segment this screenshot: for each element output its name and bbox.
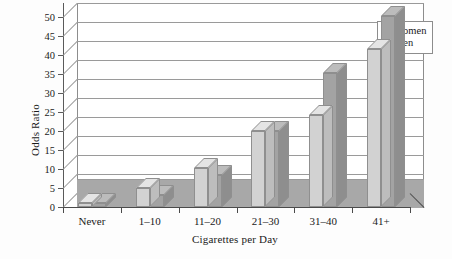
x-axis-tick [121, 207, 122, 213]
y-axis-tick-label: 45 [45, 31, 56, 42]
bar-side-face [395, 6, 405, 207]
x-axis-title: Cigarettes per Day [0, 233, 452, 245]
plot-area: 05101520253035404550 [63, 17, 410, 207]
y-axis-tick-label: 50 [45, 12, 56, 23]
x-axis-category-3140: 31–40 [310, 215, 338, 227]
bar-women-never [78, 203, 92, 207]
y-axis-tick-label: 15 [45, 145, 56, 156]
x-axis-category-1120: 11–20 [194, 215, 221, 227]
y-axis-tick-label: 35 [45, 69, 56, 80]
bar-front-face [309, 115, 323, 207]
y-axis-tick-label: 10 [45, 164, 56, 175]
x-axis-tick [294, 207, 295, 213]
x-axis-tick [179, 207, 180, 213]
y-axis-tick-label: 40 [45, 50, 56, 61]
gridline [77, 3, 424, 4]
bar-front-face [251, 131, 265, 207]
y-axis-title: Odds Ratio [29, 104, 41, 156]
x-axis-category-110: 1–10 [139, 215, 161, 227]
bar-front-face [367, 49, 381, 207]
bar-side-face [279, 121, 289, 207]
y-axis-tick-label: 25 [45, 107, 56, 118]
bar-women-41+ [367, 49, 381, 207]
chart-figure: Odds Ratio 05101520253035404550 Never1–1… [0, 0, 452, 259]
x-axis-tick [237, 207, 238, 213]
bar-front-face [78, 203, 92, 207]
bar-side-face [265, 121, 275, 207]
y-axis-tick-label: 5 [50, 183, 55, 194]
bar-group [63, 17, 410, 207]
bar-women-2130 [251, 131, 265, 207]
y-axis-tick-label: 30 [45, 88, 56, 99]
y-axis-tick-label: 20 [45, 126, 56, 137]
x-axis-tick [63, 207, 64, 213]
x-axis-category-41+: 41+ [372, 215, 389, 227]
bar-front-face [136, 188, 150, 207]
bar-women-3140 [309, 115, 323, 207]
y-axis-tick-label: 0 [50, 202, 55, 213]
bar-side-face [337, 63, 347, 207]
x-axis-category-never: Never [78, 215, 105, 227]
bar-side-face [381, 39, 391, 207]
x-axis-category-2130: 21–30 [252, 215, 280, 227]
bar-side-face [323, 105, 333, 207]
x-axis-tick [410, 207, 411, 213]
x-axis-tick [352, 207, 353, 213]
bar-front-face [194, 168, 208, 207]
bar-women-110 [136, 188, 150, 207]
bar-women-1120 [194, 168, 208, 207]
